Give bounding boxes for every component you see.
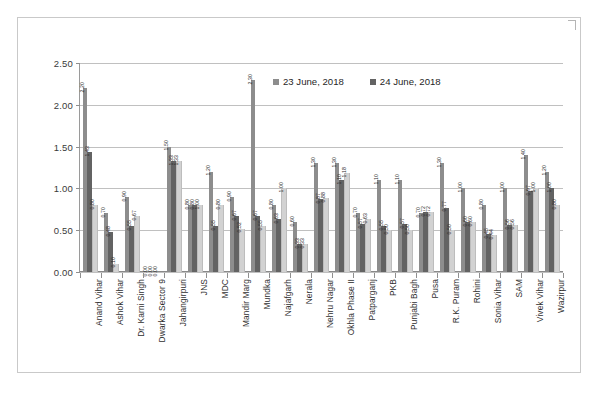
- bar: 2.20: [83, 88, 87, 272]
- bar: 0.88: [323, 198, 329, 272]
- bar-value-label: 0.80: [552, 199, 557, 210]
- x-axis-tick-mark: [374, 273, 375, 278]
- bar-value-label: 0.56: [510, 219, 515, 230]
- bar-value-label: 0.67: [132, 210, 137, 221]
- bar: 1.10: [339, 180, 343, 272]
- bar-value-label: 1.18: [342, 167, 347, 178]
- bar-value-label: 0.50: [405, 224, 410, 235]
- bar-group: 2.201.430.80: [80, 63, 101, 272]
- bar: 1.30: [440, 163, 444, 272]
- x-axis-tick-label: Najafgarh: [283, 279, 293, 316]
- bar: 0.44: [491, 235, 497, 272]
- bar: 0.63: [276, 219, 280, 272]
- x-axis-tick-label: SAM: [514, 279, 524, 297]
- bar-value-label: 0.80: [478, 199, 483, 210]
- bar: 0.57: [360, 224, 364, 272]
- bar-value-label: 1.00: [279, 182, 284, 193]
- bar: 0.55: [213, 226, 217, 272]
- bar-value-label: 0.50: [447, 224, 452, 235]
- x-axis-tick-label: Vivek Vihar: [535, 279, 545, 322]
- bar-group: 2.300.670.55: [248, 63, 269, 272]
- y-axis-tick-label: 2.00: [54, 99, 73, 110]
- bar-value-label: 0.10: [111, 257, 116, 268]
- bar-value-label: 0.90: [226, 191, 231, 202]
- bar-value-label: 1.10: [373, 174, 378, 185]
- bar-value-label: 2.20: [79, 82, 84, 93]
- bar: 0.70: [419, 213, 423, 272]
- bar-value-label: 0.70: [352, 207, 357, 218]
- x-axis-tick-label: JNS: [199, 279, 209, 295]
- x-axis-tick-label: Ashok Vihar: [115, 279, 125, 325]
- bar-value-label: 2.30: [247, 73, 252, 84]
- bar-value-label: 1.30: [331, 157, 336, 168]
- bar-value-label: 0.67: [231, 210, 236, 221]
- bar: 0.63: [365, 219, 371, 272]
- bar-value-label: 0.77: [441, 201, 446, 212]
- bar-group: 1.301.101.18: [332, 63, 353, 272]
- bar-group: 1.000.600.60: [458, 63, 479, 272]
- bar-value-label: 1.40: [520, 149, 525, 160]
- x-axis-tick-label: Mundka: [262, 279, 272, 309]
- bar-value-label: 1.00: [195, 199, 200, 210]
- bar-value-label: 1.43: [84, 146, 89, 157]
- bar: 0.80: [554, 205, 560, 272]
- x-axis-labels: Anand ViharAshok ViharDr. Karni SinghDwa…: [80, 279, 563, 371]
- bar-value-label: 0.55: [126, 220, 131, 231]
- x-axis-tick-mark: [479, 273, 480, 278]
- bar: 1.43: [87, 152, 91, 272]
- bar-group: 1.300.770.50: [437, 63, 458, 272]
- bar-value-label: 0.63: [273, 213, 278, 224]
- bar: 0.56: [507, 225, 511, 272]
- x-axis-tick-label: Dwarka Sector 9: [157, 279, 167, 342]
- x-axis-tick-mark: [521, 273, 522, 278]
- bar-value-label: 0.88: [321, 192, 326, 203]
- x-axis-tick-label: MDC: [220, 279, 230, 298]
- x-axis-tick-label: R.K. Puram: [451, 279, 461, 323]
- x-axis-tick-mark: [269, 273, 270, 278]
- x-axis-tick-label: Dr. Karni Singh: [136, 279, 146, 337]
- y-axis-tick-label: 0.50: [54, 225, 73, 236]
- bar-value-label: 1.20: [205, 165, 210, 176]
- bar-value-label: 0.63: [363, 213, 368, 224]
- x-axis-tick-label: PKB: [388, 279, 398, 296]
- bar: 0.87: [318, 199, 322, 272]
- x-axis-tick-label: Sonia Vihar: [493, 279, 503, 323]
- x-axis-tick-mark: [122, 273, 123, 278]
- bar-value-label: 1.30: [310, 157, 315, 168]
- x-axis-tick-mark: [458, 273, 459, 278]
- chart-container: 23 June, 2018 24 June, 2018 0.000.501.00…: [17, 17, 581, 373]
- x-axis-tick-mark: [290, 273, 291, 278]
- x-axis-tick-mark: [332, 273, 333, 278]
- bar: 0.70: [104, 213, 108, 272]
- bar-value-label: 1.50: [163, 140, 168, 151]
- bar: 1.00: [503, 188, 507, 272]
- x-axis-tick-label: Mandir Marg: [241, 279, 251, 327]
- bar-value-label: 0.48: [105, 226, 110, 237]
- y-axis-tick-label: 2.50: [54, 58, 73, 69]
- x-axis-tick-mark: [185, 273, 186, 278]
- bar: 1.00: [533, 188, 539, 272]
- bar: 0.80: [218, 205, 224, 272]
- y-axis-tick-label: 1.50: [54, 141, 73, 152]
- x-axis-tick-mark: [563, 273, 564, 278]
- bar: 1.33: [176, 161, 182, 272]
- x-axis-tick-label: Anand Vihar: [94, 279, 104, 326]
- bar-group: 1.100.570.50: [395, 63, 416, 272]
- x-axis-tick-label: Rohini: [472, 279, 482, 303]
- bar: 0.90: [230, 197, 234, 272]
- bar-value-label: 0.80: [268, 199, 273, 210]
- bar: 0.56: [512, 225, 518, 272]
- bar-value-label: 0.80: [216, 199, 221, 210]
- bar: 0.10: [113, 264, 119, 272]
- bar-group: 0.800.801.00: [185, 63, 206, 272]
- bar-value-label: 0.55: [210, 220, 215, 231]
- x-axis-tick-mark: [437, 273, 438, 278]
- x-axis-tick-label: Punjabi Bagh: [409, 279, 419, 330]
- bar: 0.45: [486, 234, 490, 272]
- bar: 0.60: [470, 222, 476, 272]
- x-axis-tick-mark: [248, 273, 249, 278]
- bar: 0.50: [407, 230, 413, 272]
- bar-value-label: 0.80: [90, 199, 95, 210]
- x-axis-tick-mark: [500, 273, 501, 278]
- bar: 0.80: [92, 205, 98, 272]
